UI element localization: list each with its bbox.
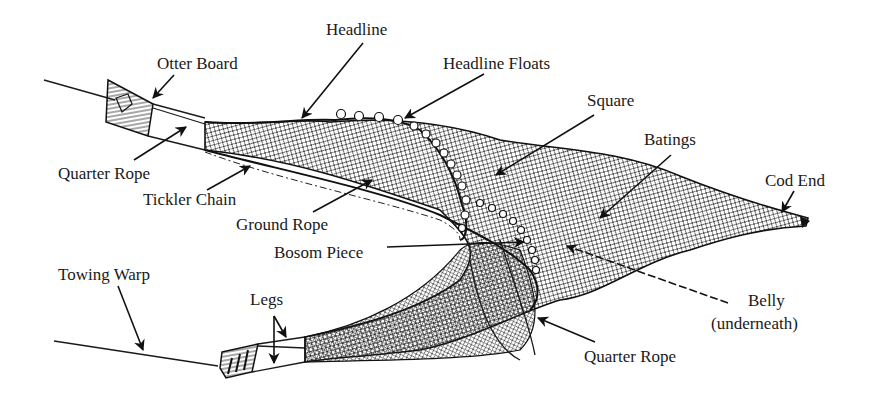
label-cod-end: Cod End: [765, 171, 825, 190]
label-ground-rope: Ground Rope: [236, 215, 328, 234]
arrow-otter-board: [153, 75, 174, 98]
arrow-headline: [302, 43, 363, 118]
label-quarter-rope-top: Quarter Rope: [58, 164, 150, 183]
arrow-headline-floats: [405, 74, 484, 118]
arrow-legs-1: [274, 316, 286, 337]
towing-warp-upper: [44, 80, 115, 100]
label-headline: Headline: [326, 20, 387, 39]
arrow-tickler-chain: [207, 166, 250, 190]
arrow-towing-warp: [118, 286, 143, 350]
arrow-quarter-rope-bottom: [538, 318, 595, 342]
label-quarter-rope-bottom: Quarter Rope: [584, 347, 676, 366]
arrow-cod-end: [782, 191, 794, 212]
label-legs: Legs: [250, 290, 283, 309]
lower-legs: [252, 337, 305, 372]
trawl-net-diagram: Headline Otter Board Headline Floats Squ…: [0, 0, 888, 401]
upper-legs: [148, 104, 205, 150]
otter-board-lower: [220, 344, 258, 378]
label-bosom-piece: Bosom Piece: [274, 243, 363, 262]
label-square: Square: [587, 91, 634, 110]
label-headline-floats: Headline Floats: [443, 54, 550, 73]
label-belly: Belly: [748, 291, 785, 310]
label-belly-note: (underneath): [711, 314, 798, 333]
label-otter-board: Otter Board: [157, 54, 238, 73]
label-batings: Batings: [644, 130, 696, 149]
label-towing-warp: Towing Warp: [58, 265, 150, 284]
towing-warp-lower: [54, 341, 218, 366]
label-tickler-chain: Tickler Chain: [143, 190, 237, 209]
otter-board-upper: [106, 80, 153, 136]
